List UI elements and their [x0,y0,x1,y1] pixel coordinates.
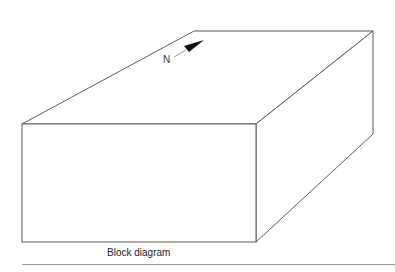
north-label: N [163,55,170,65]
figure-caption: Block diagram [107,248,170,258]
block-diagram [0,0,395,272]
block-front-face [22,124,256,242]
separator-line [22,264,395,265]
